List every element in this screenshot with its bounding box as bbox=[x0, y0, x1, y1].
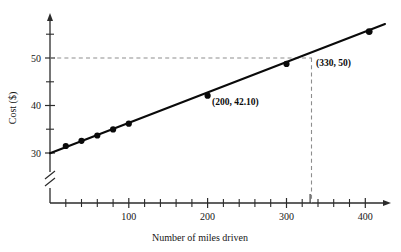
x-tick-label-100: 100 bbox=[121, 211, 136, 222]
y-tick-label-50: 50 bbox=[31, 53, 41, 64]
y-axis-title: Cost ($) bbox=[7, 92, 19, 125]
data-point bbox=[126, 121, 132, 127]
y-axis-break-icon bbox=[45, 171, 55, 186]
x-tick-label-400: 400 bbox=[358, 211, 373, 222]
data-point bbox=[94, 132, 100, 138]
cost-vs-miles-chart: 50 40 30 100 200 300 400 bbox=[0, 0, 401, 252]
y-axis-arrow-icon bbox=[47, 13, 53, 21]
data-point bbox=[366, 28, 373, 35]
y-tick-label-40: 40 bbox=[31, 100, 41, 111]
data-point bbox=[205, 93, 211, 99]
x-tick-label-200: 200 bbox=[200, 211, 215, 222]
x-axis-arrow-icon bbox=[383, 200, 391, 206]
data-point bbox=[110, 126, 116, 132]
x-axis-title: Number of miles driven bbox=[152, 232, 248, 243]
data-point bbox=[78, 138, 84, 144]
data-point bbox=[63, 143, 69, 149]
annotation-point-330: (330, 50) bbox=[316, 58, 351, 69]
regression-line bbox=[50, 24, 385, 153]
annotation-point-200: (200, 42.10) bbox=[212, 97, 259, 108]
y-tick-label-30: 30 bbox=[31, 148, 41, 159]
chart-canvas: 50 40 30 100 200 300 400 bbox=[0, 0, 401, 252]
x-tick-label-300: 300 bbox=[279, 211, 294, 222]
data-point bbox=[283, 61, 289, 67]
